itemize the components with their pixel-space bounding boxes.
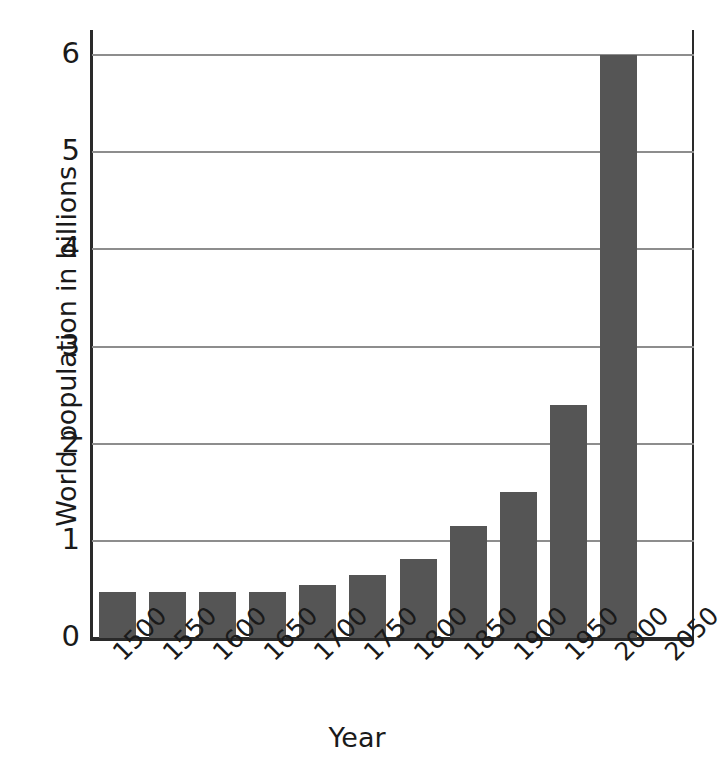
- y-axis-tick-labels: 0123456: [40, 30, 80, 638]
- y-tick-label-3: 3: [40, 331, 80, 360]
- x-axis-title: Year: [0, 722, 714, 753]
- y-axis-line: [90, 30, 93, 638]
- y-tick-label-4: 4: [40, 233, 80, 262]
- y-tick-label-1: 1: [40, 525, 80, 554]
- bar-2000: [600, 55, 637, 638]
- y-tick-label-5: 5: [40, 136, 80, 165]
- y-tick-label-6: 6: [40, 39, 80, 68]
- plot-area: [92, 30, 694, 638]
- y-tick-label-0: 0: [40, 622, 80, 651]
- x-axis-tick-labels: 1500155016001650170017501800185019001950…: [92, 646, 694, 726]
- plot-right-border: [692, 30, 694, 638]
- y-tick-label-2: 2: [40, 428, 80, 457]
